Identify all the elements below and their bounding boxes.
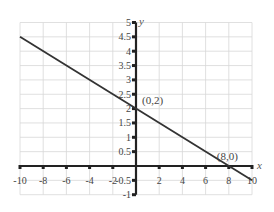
y-tick-mark <box>132 64 136 67</box>
x-tick-mark <box>204 165 207 169</box>
x-axis-label: x <box>256 159 262 171</box>
x-tick-label: 4 <box>180 175 185 186</box>
x-tick-mark <box>111 165 114 169</box>
x-tick-label: 2 <box>157 175 162 186</box>
y-tick-label: -1 <box>123 189 131 200</box>
y-tick-label: 3.5 <box>119 60 132 71</box>
y-axis-label: y <box>138 15 144 27</box>
y-tick-label: 5 <box>126 17 131 28</box>
y-tick-label: 4 <box>126 46 131 57</box>
x-tick-label: -8 <box>39 175 47 186</box>
x-tick-mark <box>251 165 254 169</box>
y-tick-label: -0.5 <box>115 175 131 186</box>
y-tick-mark <box>132 21 136 24</box>
x-tick-mark <box>65 165 68 169</box>
y-tick-mark <box>132 179 136 182</box>
x-tick-label: 10 <box>247 175 257 186</box>
x-tick-mark <box>42 165 45 169</box>
y-tick-mark <box>132 78 136 81</box>
x-tick-label: -4 <box>85 175 93 186</box>
y-tick-label: 1 <box>126 132 131 143</box>
x-tick-label: -6 <box>62 175 70 186</box>
x-tick-mark <box>158 165 161 169</box>
x-tick-label: 6 <box>203 175 208 186</box>
tick-labels: -10-8-6-4-224681054.543.532.521.510.5-0.… <box>13 15 262 201</box>
y-tick-mark <box>132 121 136 124</box>
x-tick-mark <box>19 165 22 169</box>
point-annotation: (0,2) <box>142 94 163 107</box>
x-tick-label: 8 <box>226 175 231 186</box>
y-tick-label: 0.5 <box>119 146 132 157</box>
x-tick-label: -10 <box>13 175 26 186</box>
line-chart: -10-8-6-4-224681054.543.532.521.510.5-0.… <box>0 0 274 212</box>
y-tick-label: 3 <box>126 74 131 85</box>
y-tick-mark <box>132 136 136 139</box>
y-tick-mark <box>132 35 136 38</box>
annotations: (0,2)(8,0) <box>142 94 238 163</box>
y-tick-mark <box>132 93 136 96</box>
y-tick-label: 4.5 <box>119 31 132 42</box>
y-tick-mark <box>132 193 136 196</box>
y-tick-mark <box>132 150 136 153</box>
x-tick-mark <box>88 165 91 169</box>
y-tick-mark <box>132 50 136 53</box>
x-tick-mark <box>181 165 184 169</box>
y-tick-label: 1.5 <box>119 117 132 128</box>
point-annotation: (8,0) <box>217 150 238 163</box>
